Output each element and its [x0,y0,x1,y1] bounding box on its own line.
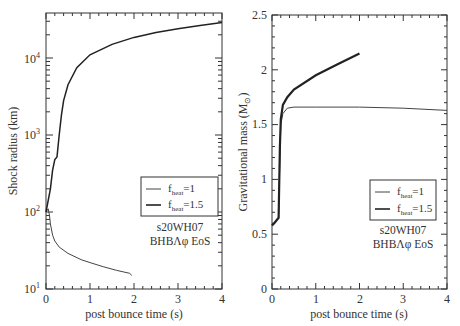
left-panel: 101 102 103 104 0 1 2 3 4 post bounce ti… [6,13,225,321]
right-ytick-label-1: 0.5 [252,227,267,241]
left-x-ticks [46,13,222,289]
left-y-ticks [46,21,222,289]
series-line [46,209,132,276]
right-annotation-model: s20WH07 [380,224,427,236]
left-x-axis-label: post bounce time (s) [85,307,183,321]
series-line [272,53,360,225]
right-legend: fheat=1 fheat=1.5 [370,180,436,220]
left-annotation-eos: BHBΛφ EoS [150,235,211,248]
left-xtick-label-1: 1 [87,292,93,306]
left-xtick-label-3: 3 [175,292,181,306]
left-ytick-label-1: 101 [24,281,40,296]
figure: 101 102 103 104 0 1 2 3 4 post bounce ti… [0,0,460,326]
left-legend: fheat=1 fheat=1.5 [141,177,218,216]
left-xtick-label-4: 4 [219,292,225,306]
right-xtick-label-1: 1 [313,292,319,306]
left-annotation-model: s20WH07 [157,221,204,233]
right-ytick-label-3: 1.5 [252,117,267,131]
left-ytick-label-3: 103 [24,127,40,142]
left-xtick-label-2: 2 [131,292,137,306]
left-xtick-label-0: 0 [43,292,49,306]
right-xtick-label-3: 3 [400,292,406,306]
right-x-axis-label: post bounce time (s) [310,307,408,321]
right-ytick-label-0: 0 [261,282,267,296]
right-xtick-label-0: 0 [269,292,275,306]
right-ytick-label-4: 2 [261,63,267,77]
left-ytick-label-2: 102 [24,204,40,219]
left-ytick-label-4: 104 [24,51,40,66]
left-plot-frame [46,13,222,289]
right-xtick-label-2: 2 [357,292,363,306]
right-annotation-eos: BHBΛφ EoS [373,238,434,251]
right-ytick-label-2: 1 [261,172,267,186]
right-y-axis-label: Gravitational mass (M⊙) [236,93,252,212]
right-panel: 0 0.5 1 1.5 2 2.5 0 1 2 3 4 post bounce … [236,8,450,321]
right-xtick-label-4: 4 [444,292,450,306]
left-y-axis-label: Shock radius (km) [6,107,20,196]
right-ytick-label-5: 2.5 [252,8,267,22]
